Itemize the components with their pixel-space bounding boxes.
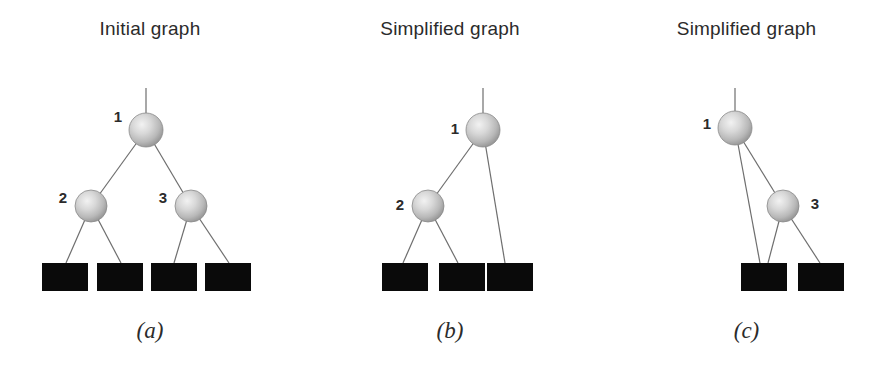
panel-caption-c: (c) xyxy=(600,318,893,344)
node-label-1: 1 xyxy=(114,108,122,125)
node-label-1: 1 xyxy=(451,120,459,137)
panel-caption-b: (b) xyxy=(300,318,600,344)
node-label-2: 2 xyxy=(396,196,404,213)
leaf-group xyxy=(741,263,844,291)
node-sphere-1 xyxy=(718,111,752,145)
leaf-box-1 xyxy=(439,263,485,291)
node-sphere-2 xyxy=(412,190,444,222)
node-label-1: 1 xyxy=(703,115,711,132)
graph-b: 12 xyxy=(300,0,600,367)
leaf-box-1 xyxy=(798,263,844,291)
leaf-box-1 xyxy=(97,263,143,291)
node-group: 123 xyxy=(59,108,207,222)
node-sphere-1 xyxy=(466,113,500,147)
leaf-group xyxy=(382,263,533,291)
node-label-2: 2 xyxy=(59,189,67,206)
panel-a: Initial graph123(a) xyxy=(0,0,300,367)
leaf-box-0 xyxy=(741,263,787,291)
leaf-box-2 xyxy=(151,263,197,291)
graph-c: 13 xyxy=(600,0,893,367)
leaf-group xyxy=(42,263,251,291)
node-label-3: 3 xyxy=(811,195,819,212)
panel-b: Simplified graph12(b) xyxy=(300,0,600,367)
node-group: 12 xyxy=(396,113,500,222)
panel-caption-a: (a) xyxy=(0,318,300,344)
figure-three-graph-panels: Initial graph123(a)Simplified graph12(b)… xyxy=(0,0,893,367)
node-sphere-1 xyxy=(129,113,163,147)
node-sphere-2 xyxy=(75,190,107,222)
node-sphere-3 xyxy=(767,190,799,222)
node-sphere-3 xyxy=(175,190,207,222)
graph-a: 123 xyxy=(0,0,300,367)
edge-node-1-to-leaf-2 xyxy=(483,130,505,263)
node-group: 13 xyxy=(703,111,819,222)
node-label-3: 3 xyxy=(159,189,167,206)
leaf-box-2 xyxy=(487,263,533,291)
leaf-box-3 xyxy=(205,263,251,291)
leaf-box-0 xyxy=(382,263,428,291)
panel-c: Simplified graph13(c) xyxy=(600,0,893,367)
leaf-box-0 xyxy=(42,263,88,291)
